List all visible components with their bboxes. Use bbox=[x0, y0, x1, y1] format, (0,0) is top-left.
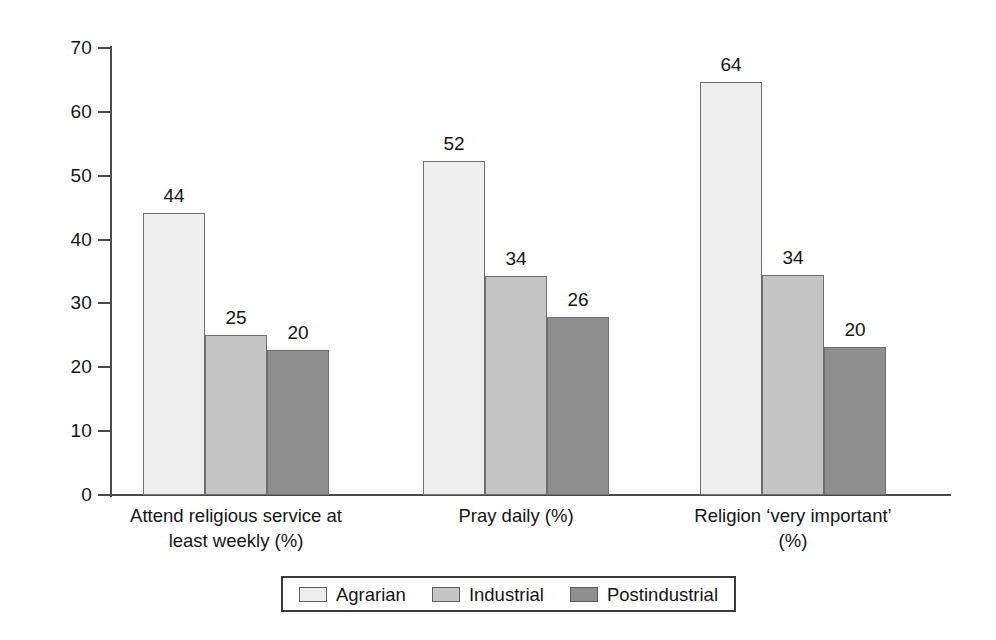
y-axis-tick-label: 20 bbox=[22, 357, 92, 376]
legend-label: Industrial bbox=[469, 585, 544, 604]
bar-value-label: 34 bbox=[473, 249, 559, 268]
y-axis-tick bbox=[98, 239, 110, 241]
x-axis-category-label: Religion ‘very important’ (%) bbox=[633, 503, 953, 553]
bar-postindustrial-group-3 bbox=[824, 347, 886, 495]
bar-chart-figure: 706050403020100 442520523426643420 Atten… bbox=[0, 0, 996, 640]
legend-label: Postindustrial bbox=[607, 585, 718, 604]
bar-value-label: 34 bbox=[750, 248, 836, 267]
y-axis-tick bbox=[98, 47, 110, 49]
bar-value-label: 64 bbox=[688, 55, 774, 74]
y-axis-tick bbox=[98, 366, 110, 368]
legend-entry-industrial: Industrial bbox=[432, 585, 544, 604]
y-axis-tick-label: 10 bbox=[22, 421, 92, 440]
y-axis-tick-label: 0 bbox=[22, 485, 92, 504]
y-axis-tick bbox=[98, 430, 110, 432]
legend-swatch-agrarian bbox=[299, 587, 327, 602]
y-axis-tick-label: 70 bbox=[22, 38, 92, 57]
y-axis-tick bbox=[98, 175, 110, 177]
y-axis-tick bbox=[98, 494, 110, 496]
bar-postindustrial-group-2 bbox=[547, 317, 609, 495]
bar-postindustrial-group-1 bbox=[267, 350, 329, 495]
y-axis-tick-label: 40 bbox=[22, 230, 92, 249]
y-axis-line bbox=[110, 46, 112, 497]
chart-legend: AgrarianIndustrialPostindustrial bbox=[281, 576, 736, 612]
legend-entry-agrarian: Agrarian bbox=[299, 585, 406, 604]
y-axis-tick-label: 30 bbox=[22, 293, 92, 312]
legend-label: Agrarian bbox=[336, 585, 406, 604]
x-axis-category-label: Attend religious service at least weekly… bbox=[76, 503, 396, 553]
bar-industrial-group-3 bbox=[762, 275, 824, 495]
bar-agrarian-group-1 bbox=[143, 213, 205, 495]
bar-agrarian-group-2 bbox=[423, 161, 485, 495]
y-axis-tick bbox=[98, 302, 110, 304]
bar-agrarian-group-3 bbox=[700, 82, 762, 495]
bar-value-label: 20 bbox=[812, 320, 898, 339]
x-axis-category-label: Pray daily (%) bbox=[356, 503, 676, 528]
legend-entry-postindustrial: Postindustrial bbox=[570, 585, 718, 604]
bar-industrial-group-1 bbox=[205, 335, 267, 495]
bar-value-label: 44 bbox=[131, 186, 217, 205]
bar-value-label: 26 bbox=[535, 290, 621, 309]
legend-swatch-industrial bbox=[432, 587, 460, 602]
y-axis-tick-label: 50 bbox=[22, 166, 92, 185]
y-axis-tick bbox=[98, 111, 110, 113]
y-axis-tick-label: 60 bbox=[22, 102, 92, 121]
legend-swatch-postindustrial bbox=[570, 587, 598, 602]
bar-value-label: 20 bbox=[255, 323, 341, 342]
bar-value-label: 52 bbox=[411, 134, 497, 153]
